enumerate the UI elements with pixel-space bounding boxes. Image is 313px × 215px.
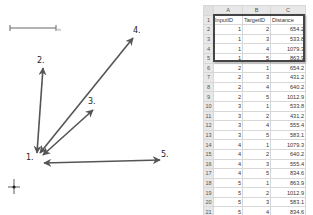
cell-targetid[interactable]: 3 xyxy=(243,159,271,169)
cell-inputid[interactable]: 2 xyxy=(214,82,243,92)
cell-targetid[interactable]: 5 xyxy=(243,169,271,179)
row-number[interactable]: 19 xyxy=(204,188,214,198)
cell-targetid[interactable]: 1 xyxy=(243,178,271,188)
row-number[interactable]: 5 xyxy=(204,53,214,63)
table-row: 1542640.2 xyxy=(204,149,306,159)
cell-distance[interactable]: 431.2 xyxy=(271,73,306,83)
cell-targetid[interactable]: 2 xyxy=(243,25,271,35)
cell-distance[interactable]: 863.9 xyxy=(271,53,306,63)
table-row: 1234555.4 xyxy=(204,121,306,131)
node-3-label: 3. xyxy=(88,98,96,106)
column-header-a[interactable]: A xyxy=(214,6,243,16)
row-number[interactable]: 8 xyxy=(204,82,214,92)
cell-distance[interactable]: 431.2 xyxy=(271,111,306,121)
cell-inputid[interactable]: 4 xyxy=(214,159,243,169)
row-number[interactable]: 12 xyxy=(204,121,214,131)
cell-distance[interactable]: 834.6 xyxy=(271,169,306,179)
cell-distance[interactable]: 555.4 xyxy=(271,159,306,169)
cell-inputid[interactable]: 1 xyxy=(214,53,243,63)
table-row: 1132431.2 xyxy=(204,111,306,121)
row-number[interactable]: 10 xyxy=(204,101,214,111)
cell-targetid[interactable]: 4 xyxy=(243,207,271,215)
cell-inputid[interactable]: 3 xyxy=(214,121,243,131)
cell-targetid[interactable]: 5 xyxy=(243,92,271,102)
row-number[interactable]: 1 xyxy=(204,15,214,25)
cell-distance[interactable]: 583.1 xyxy=(271,130,306,140)
cell-distance[interactable]: 555.4 xyxy=(271,121,306,131)
cell-targetid[interactable]: 2 xyxy=(243,149,271,159)
row-number[interactable]: 4 xyxy=(204,44,214,54)
table-row: 1745834.6 xyxy=(204,169,306,179)
select-all-corner[interactable] xyxy=(204,6,214,16)
row-number[interactable]: 9 xyxy=(204,92,214,102)
row-number[interactable]: 20 xyxy=(204,197,214,207)
row-number[interactable]: 2 xyxy=(204,25,214,35)
cell-inputid[interactable]: 5 xyxy=(214,207,243,215)
table-row: 1031533.8 xyxy=(204,101,306,111)
row-number[interactable]: 3 xyxy=(204,34,214,44)
cell-distance[interactable]: 640.2 xyxy=(271,149,306,159)
cell-distance[interactable]: 533.8 xyxy=(271,101,306,111)
cell-distance[interactable]: 654.2 xyxy=(271,63,306,73)
table-row: 19521012.9 xyxy=(204,188,306,198)
row-number[interactable]: 7 xyxy=(204,73,214,83)
row-number[interactable]: 11 xyxy=(204,111,214,121)
cell-distance[interactable]: 533.8 xyxy=(271,34,306,44)
cell-inputid[interactable]: 5 xyxy=(214,178,243,188)
cell-distance[interactable]: 863.9 xyxy=(271,178,306,188)
table-row: 621654.2 xyxy=(204,63,306,73)
column-header-c[interactable]: C xyxy=(271,6,306,16)
cell-targetid[interactable]: 4 xyxy=(243,44,271,54)
cell-inputid[interactable]: 5 xyxy=(214,197,243,207)
row-number[interactable]: 14 xyxy=(204,140,214,150)
cell-targetid[interactable]: 1 xyxy=(243,63,271,73)
row-number[interactable]: 17 xyxy=(204,169,214,179)
cell-header-targetid[interactable]: TargetID xyxy=(243,15,271,25)
table-row: 723431.2 xyxy=(204,73,306,83)
table-row: 1 InputID TargetID Distance xyxy=(204,15,306,25)
cell-inputid[interactable]: 1 xyxy=(214,44,243,54)
cell-inputid[interactable]: 2 xyxy=(214,73,243,83)
cell-distance[interactable]: 1079.3 xyxy=(271,140,306,150)
cell-targetid[interactable]: 3 xyxy=(243,197,271,207)
cell-targetid[interactable]: 3 xyxy=(243,73,271,83)
cell-inputid[interactable]: 3 xyxy=(214,111,243,121)
cell-distance[interactable]: 1012.9 xyxy=(271,92,306,102)
cell-inputid[interactable]: 3 xyxy=(214,101,243,111)
row-number[interactable]: 13 xyxy=(204,130,214,140)
cell-distance[interactable]: 583.1 xyxy=(271,197,306,207)
cell-distance[interactable]: 640.2 xyxy=(271,82,306,92)
cell-inputid[interactable]: 5 xyxy=(214,188,243,198)
row-number[interactable]: 6 xyxy=(204,63,214,73)
row-number[interactable]: 16 xyxy=(204,159,214,169)
row-number[interactable]: 21 xyxy=(204,207,214,215)
cell-targetid[interactable]: 4 xyxy=(243,82,271,92)
cell-header-distance[interactable]: Distance xyxy=(271,15,306,25)
cell-targetid[interactable]: 5 xyxy=(243,53,271,63)
edge-1-3 xyxy=(43,110,93,155)
cell-targetid[interactable]: 4 xyxy=(243,121,271,131)
cell-targetid[interactable]: 1 xyxy=(243,101,271,111)
cell-inputid[interactable]: 4 xyxy=(214,140,243,150)
cell-distance[interactable]: 654.2 xyxy=(271,25,306,35)
cell-distance[interactable]: 1012.9 xyxy=(271,188,306,198)
cell-inputid[interactable]: 1 xyxy=(214,34,243,44)
cell-targetid[interactable]: 2 xyxy=(243,111,271,121)
column-header-b[interactable]: B xyxy=(243,6,271,16)
cell-inputid[interactable]: 4 xyxy=(214,169,243,179)
cell-targetid[interactable]: 5 xyxy=(243,130,271,140)
cell-inputid[interactable]: 2 xyxy=(214,63,243,73)
cell-inputid[interactable]: 4 xyxy=(214,149,243,159)
cell-distance[interactable]: 1079.3 xyxy=(271,44,306,54)
row-number[interactable]: 18 xyxy=(204,178,214,188)
cell-targetid[interactable]: 2 xyxy=(243,188,271,198)
cell-inputid[interactable]: 3 xyxy=(214,130,243,140)
cell-targetid[interactable]: 1 xyxy=(243,140,271,150)
cell-header-inputid[interactable]: InputID xyxy=(214,15,243,25)
cell-targetid[interactable]: 3 xyxy=(243,34,271,44)
cell-inputid[interactable]: 2 xyxy=(214,92,243,102)
cell-inputid[interactable]: 1 xyxy=(214,25,243,35)
table-row: 1643555.4 xyxy=(204,159,306,169)
row-number[interactable]: 15 xyxy=(204,149,214,159)
cell-distance[interactable]: 834.6 xyxy=(271,207,306,215)
